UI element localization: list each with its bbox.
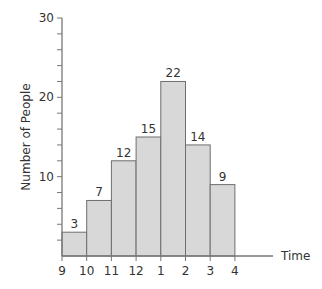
- bars-group: [62, 81, 235, 256]
- bar-value-label: 14: [190, 130, 205, 144]
- y-tick-label: 10: [39, 170, 54, 184]
- histogram-chart: 37121522149 102030 91011121234 Time Numb…: [0, 0, 322, 289]
- bar-2-3: [186, 145, 211, 256]
- x-tick-label: 9: [58, 264, 66, 278]
- bar-11-12: [111, 161, 136, 256]
- x-axis-ticks: 91011121234: [58, 256, 239, 278]
- x-tick-label: 11: [104, 264, 119, 278]
- bar-value-label: 9: [219, 170, 227, 184]
- bar-3-4: [210, 185, 235, 256]
- x-tick-label: 10: [79, 264, 94, 278]
- x-tick-label: 1: [157, 264, 165, 278]
- bar-value-label: 7: [95, 185, 103, 199]
- bar-value-label: 15: [141, 122, 156, 136]
- y-tick-label: 30: [39, 11, 54, 25]
- bar-value-label: 22: [166, 66, 181, 80]
- bar-9-10: [62, 232, 87, 256]
- y-tick-label: 20: [39, 90, 54, 104]
- x-tick-label: 12: [128, 264, 143, 278]
- bar-value-label: 12: [116, 146, 131, 160]
- y-axis-ticks: 102030: [39, 11, 62, 240]
- bar-10-11: [87, 200, 112, 256]
- x-tick-label: 3: [206, 264, 214, 278]
- x-tick-label: 2: [182, 264, 190, 278]
- x-tick-label: 4: [231, 264, 239, 278]
- bar-1-2: [161, 81, 186, 256]
- bar-12-1: [136, 137, 161, 256]
- x-axis-title: Time: [280, 249, 310, 263]
- y-axis-title: Number of People: [19, 83, 33, 190]
- bar-value-label: 3: [71, 217, 79, 231]
